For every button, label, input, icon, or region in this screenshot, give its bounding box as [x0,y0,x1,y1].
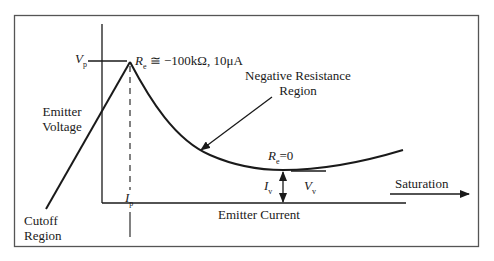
saturation-label: Saturation [395,176,448,191]
negative-region-arrow [201,97,272,150]
emitter-voltage-label: Emitter Voltage [34,104,90,134]
vp-label: Vp [75,51,87,72]
cutoff-curve [46,62,130,209]
ip-label: Ip [125,190,133,211]
valley-resistance-label: Re=0 [268,148,293,169]
negative-resistance-label: Negative Resistance Region [238,68,358,98]
cutoff-region-label: Cutoff Region [24,213,62,243]
vv-label: Vv [304,178,316,199]
emitter-current-label: Emitter Current [218,207,300,222]
iv-label: Iv [264,178,272,199]
peak-resistance-label: Re ≅ −100kΩ, 10μA [135,53,243,74]
